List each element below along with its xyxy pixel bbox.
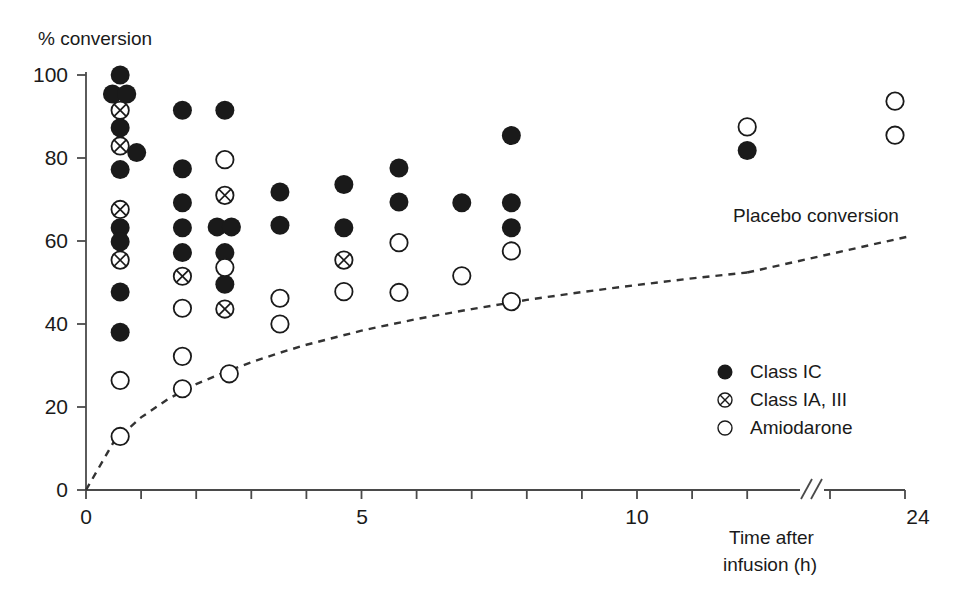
data-point-filled: [127, 143, 146, 162]
legend-item-class-ia-iii: Class IA, III: [712, 386, 852, 414]
data-point-filled: [215, 275, 234, 294]
data-point-open: [216, 151, 233, 168]
data-point-open: [111, 428, 128, 445]
data-point-open: [174, 348, 191, 365]
filled-circle-icon: [712, 358, 738, 386]
axis-break-slash-1: [801, 479, 812, 499]
y-tick-label-80: 80: [22, 146, 68, 170]
data-point-filled: [111, 283, 130, 302]
data-point-filled: [111, 160, 130, 179]
data-point-filled: [111, 66, 130, 85]
chart-figure: % conversion 100 80 60 40 20 0 0 5 10 24…: [0, 0, 953, 597]
data-point-filled: [173, 101, 192, 120]
data-point-open: [503, 242, 520, 259]
data-point-open: [271, 290, 288, 307]
data-point-filled: [452, 193, 471, 212]
data-point-open: [739, 118, 756, 135]
crossed-circle-icon: [712, 386, 738, 414]
data-point-filled: [222, 217, 241, 236]
data-point-filled: [111, 323, 130, 342]
data-point-filled: [270, 183, 289, 202]
legend-label-class-ia-iii: Class IA, III: [750, 389, 847, 411]
data-point-filled: [173, 218, 192, 237]
data-point-filled: [173, 159, 192, 178]
chart-legend: Class IC Class IA, III Amiodarone: [712, 358, 852, 442]
open-circle-icon: [712, 414, 738, 442]
data-point-filled: [270, 216, 289, 235]
legend-label-amiodarone: Amiodarone: [750, 417, 852, 439]
x-axis-title-line2: infusion (h): [723, 554, 817, 576]
data-point-filled: [502, 126, 521, 145]
axis-break-slash-2: [811, 479, 822, 499]
data-point-filled: [389, 192, 408, 211]
placebo-curve-annotation: Placebo conversion: [733, 205, 899, 227]
data-point-filled: [111, 118, 130, 137]
data-point-open: [886, 126, 903, 143]
data-point-open: [271, 315, 288, 332]
placebo-conversion-curve-right: [747, 237, 907, 273]
x-tick-label-24: 24: [895, 505, 941, 529]
data-point-filled: [111, 232, 130, 251]
legend-label-class-ic: Class IC: [750, 361, 822, 383]
data-point-open: [503, 293, 520, 310]
x-tick-label-5: 5: [339, 505, 385, 529]
data-point-filled: [334, 175, 353, 194]
data-point-filled: [738, 141, 757, 160]
data-point-open: [221, 365, 238, 382]
scatter-plot-canvas: [0, 0, 953, 597]
data-point-filled: [173, 243, 192, 262]
data-point-filled: [502, 193, 521, 212]
data-point-open: [174, 380, 191, 397]
data-point-open: [390, 284, 407, 301]
data-point-filled: [389, 158, 408, 177]
y-tick-label-40: 40: [22, 312, 68, 336]
legend-item-class-ic: Class IC: [712, 358, 852, 386]
data-point-filled: [215, 101, 234, 120]
data-point-open: [216, 259, 233, 276]
data-point-filled: [502, 218, 521, 237]
data-point-open: [174, 300, 191, 317]
x-tick-label-0: 0: [63, 505, 109, 529]
data-point-open: [335, 283, 352, 300]
series-class-ic: [103, 66, 757, 342]
legend-item-amiodarone: Amiodarone: [712, 414, 852, 442]
data-point-open: [886, 92, 903, 109]
x-axis-title-line1: Time after: [729, 527, 814, 549]
data-point-filled: [173, 193, 192, 212]
y-tick-label-60: 60: [22, 229, 68, 253]
y-tick-label-100: 100: [22, 63, 68, 87]
data-point-open: [390, 234, 407, 251]
data-point-open: [453, 267, 470, 284]
x-tick-label-10: 10: [614, 505, 660, 529]
data-point-open: [111, 372, 128, 389]
y-tick-label-20: 20: [22, 395, 68, 419]
y-axis-title: % conversion: [38, 28, 152, 50]
y-tick-label-0: 0: [22, 478, 68, 502]
data-point-filled: [334, 218, 353, 237]
